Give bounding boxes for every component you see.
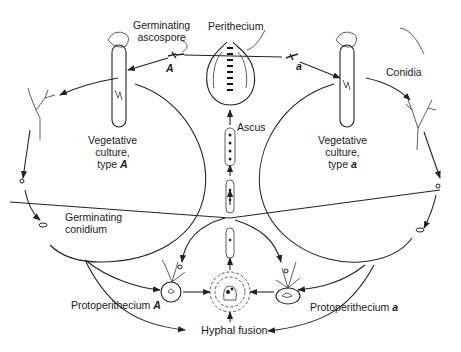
life-cycle-diagram xyxy=(0,0,461,352)
label-protoperithecium-A: Protoperithecium A xyxy=(71,299,161,311)
label-vegetative-culture-A: Vegetative culture, type A xyxy=(88,134,137,170)
test-tube-a xyxy=(336,32,357,127)
label-protoperithecium-a: Protoperithecium a xyxy=(310,301,398,313)
label-conidia: Conidia xyxy=(386,66,422,78)
protoperithecium-A-drawing xyxy=(161,260,185,302)
cycle-arc-right xyxy=(259,84,412,262)
hyphae-A xyxy=(28,88,55,140)
label-hyphal-fusion: Hyphal fusion xyxy=(201,324,268,336)
conidia-drawing xyxy=(406,100,436,150)
label-ascus: Ascus xyxy=(237,121,266,133)
protoperithecium-a-drawing xyxy=(276,262,300,304)
cycle-arc-left xyxy=(50,84,206,262)
arrow-ascospore-a xyxy=(300,62,340,78)
label-germinating-conidium: Germinating conidium xyxy=(65,211,122,235)
label-perithecium: Perithecium xyxy=(208,20,263,32)
arrow-ascospore-A xyxy=(128,58,168,70)
perithecium-drawing xyxy=(207,30,265,105)
label-ascospore-a: a xyxy=(296,60,302,72)
label-vegetative-culture-a: Vegetative culture, type a xyxy=(318,134,367,170)
label-ascospore-A: A xyxy=(166,62,174,74)
fusion-cell-drawing xyxy=(210,272,250,312)
arrow-culture-to-hyphae-A xyxy=(60,78,118,95)
arrow-culture-to-conidia-a xyxy=(366,78,410,100)
label-germinating-ascospore: Germinating ascospore xyxy=(133,19,190,43)
